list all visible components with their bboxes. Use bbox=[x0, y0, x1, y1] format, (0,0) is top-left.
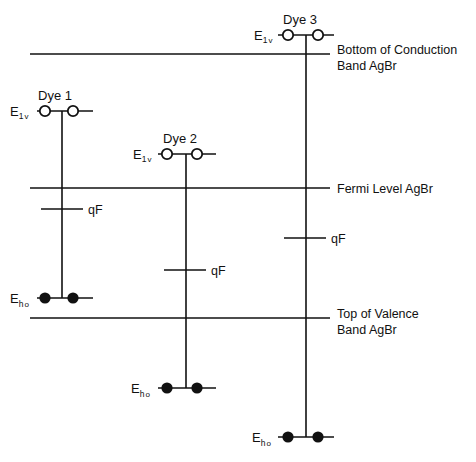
dye-3-excited-hole-circle-right bbox=[313, 30, 323, 40]
dye-3-ground-label: Eho bbox=[252, 430, 271, 448]
dye-2-title: Dye 2 bbox=[163, 131, 197, 146]
dye-2-ground-electron-left bbox=[161, 382, 172, 393]
dye-2-ground-label-base: E bbox=[131, 381, 140, 396]
band-labels-group: Bottom of Conduction Band AgBr Fermi Lev… bbox=[337, 43, 457, 337]
dye-1-excited-label-sub: 1 bbox=[19, 111, 24, 121]
dye-1-quasi-fermi-label: qF bbox=[88, 203, 103, 217]
dye-1-excited-hole-circle-right bbox=[68, 106, 78, 116]
energy-level-diagram: Bottom of Conduction Band AgBr Fermi Lev… bbox=[0, 0, 476, 462]
dye-1-ground-label-base: E bbox=[10, 291, 19, 306]
conduction-band-label-line2: Band AgBr bbox=[337, 59, 397, 73]
dye-1-group: Dye 1 E1v qF Eho bbox=[10, 88, 103, 309]
dye-1-excited-label-base: E bbox=[10, 104, 19, 119]
dye-2-excited-label-subsub: v bbox=[147, 155, 151, 164]
valence-band-label-line2: Band AgBr bbox=[337, 323, 397, 337]
dye-3-title: Dye 3 bbox=[283, 12, 317, 27]
dye-2-excited-hole-circle-right bbox=[192, 149, 202, 159]
dye-2-excited-label: E1v bbox=[133, 147, 151, 164]
conduction-band-label-line1: Bottom of Conduction bbox=[337, 43, 457, 57]
band-lines-group bbox=[30, 54, 330, 318]
dye-2-excited-label-sub: 1 bbox=[142, 154, 147, 164]
dye-3-group: Dye 3 E1v qF Eho bbox=[252, 12, 346, 448]
fermi-level-label: Fermi Level AgBr bbox=[337, 182, 433, 196]
dye-3-excited-label-base: E bbox=[254, 28, 263, 43]
dye-3-ground-electron-right bbox=[312, 431, 323, 442]
dye-1-ground-label-subsub: o bbox=[24, 300, 29, 309]
dye-1-excited-label-subsub: v bbox=[24, 112, 28, 121]
dye-2-ground-label: Eho bbox=[131, 381, 150, 399]
dye-1-excited-hole-circle-left bbox=[40, 106, 50, 116]
dye-2-ground-label-subsub: o bbox=[145, 390, 150, 399]
dye-2-ground-electron-right bbox=[191, 382, 202, 393]
dye-1-title: Dye 1 bbox=[38, 88, 72, 103]
valence-band-label-line1: Top of Valence bbox=[337, 307, 419, 321]
dye-3-ground-electron-left bbox=[282, 431, 293, 442]
dye-3-excited-hole-circle-left bbox=[283, 30, 293, 40]
dye-3-excited-label-sub: 1 bbox=[263, 35, 268, 45]
dye-2-group: Dye 2 E1v qF Eho bbox=[131, 131, 226, 399]
dye-1-ground-electron-right bbox=[67, 292, 78, 303]
dye-3-ground-label-sub: h bbox=[261, 438, 266, 448]
dye-3-quasi-fermi-label: qF bbox=[331, 232, 346, 246]
dye-2-excited-label-base: E bbox=[133, 147, 142, 162]
dye-2-ground-label-sub: h bbox=[140, 389, 145, 399]
dye-2-quasi-fermi-label: qF bbox=[211, 264, 226, 278]
dye-3-ground-label-subsub: o bbox=[266, 439, 271, 448]
dye-3-excited-label-subsub: v bbox=[268, 36, 272, 45]
dye-1-ground-electron-left bbox=[39, 292, 50, 303]
dye-3-excited-label: E1v bbox=[254, 28, 272, 45]
dye-3-ground-label-base: E bbox=[252, 430, 261, 445]
dye-2-excited-hole-circle-left bbox=[162, 149, 172, 159]
dye-1-excited-label: E1v bbox=[10, 104, 28, 121]
dye-1-ground-label-sub: h bbox=[19, 299, 24, 309]
dye-1-ground-label: Eho bbox=[10, 291, 29, 309]
diagram-canvas: Bottom of Conduction Band AgBr Fermi Lev… bbox=[0, 0, 476, 462]
